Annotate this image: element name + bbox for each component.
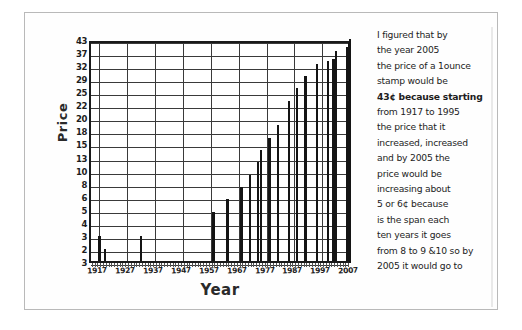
gridline-horizontal [91, 200, 348, 201]
x-axis-tick-label: 1967 [227, 265, 247, 275]
x-axis-title: Year [89, 281, 351, 299]
gridline-horizontal [91, 147, 348, 148]
bar [140, 236, 142, 261]
note-line: ten years it goes [377, 227, 495, 242]
bar [277, 125, 279, 261]
y-axis-tick-label: 5 [81, 206, 87, 216]
bar [268, 138, 270, 261]
x-axis-tick-label: 1937 [143, 265, 163, 275]
y-axis-tick-label: 37 [76, 49, 87, 59]
gridline-horizontal [91, 226, 348, 227]
bar [349, 39, 351, 261]
gridline-horizontal [91, 134, 348, 135]
y-axis-tick-label: 18 [76, 127, 87, 137]
x-axis-tick-label: 1997 [310, 265, 330, 275]
gridline-horizontal [91, 213, 348, 214]
x-axis-tick-labels: 1917192719371947195719671977198719972007 [89, 266, 351, 282]
note-line: 2005 it would go to [377, 258, 495, 273]
y-axis-tick-label: 43 [76, 36, 87, 46]
note-line: is the span each [377, 212, 495, 227]
y-axis-tick-label: 13 [76, 154, 87, 164]
y-axis-tick-label: 15 [76, 140, 87, 150]
y-axis-tick-label: 22 [76, 101, 87, 111]
bar [226, 199, 228, 261]
note-line: increased, increased [377, 135, 495, 150]
gridline-horizontal [91, 108, 348, 109]
y-axis-tick-label: 2 [81, 245, 87, 255]
bar [288, 101, 290, 261]
y-axis-tick-label: 4 [81, 219, 87, 229]
gridline-vertical [155, 43, 156, 261]
plot-area [89, 41, 351, 263]
gridline-horizontal [91, 121, 348, 122]
gridline-horizontal [91, 56, 348, 57]
handwritten-note: I figured that bythe year 2005the price … [377, 27, 495, 299]
bar [260, 150, 262, 261]
gridline-horizontal [91, 95, 348, 96]
bar [296, 88, 298, 261]
x-axis-tick-label: 1927 [115, 265, 135, 275]
gridline-vertical [127, 43, 128, 261]
gridline-horizontal [91, 187, 348, 188]
note-line: from 1917 to 1995 [377, 104, 495, 119]
gridline-horizontal [91, 161, 348, 162]
paper-frame: Price 43373229252220181513108654323 1917… [24, 12, 498, 310]
x-axis-tick-label: 2007 [338, 265, 358, 275]
note-line: price would be [377, 166, 495, 181]
note-line: increasing about [377, 181, 495, 196]
bar [98, 236, 100, 261]
gridline-horizontal [91, 174, 348, 175]
note-line: from 8 to 9 &10 so by [377, 243, 495, 258]
note-line: the year 2005 [377, 42, 495, 57]
gridline-horizontal [91, 69, 348, 70]
x-axis-tick-label: 1987 [282, 265, 302, 275]
note-line: 43¢ because starting [377, 89, 495, 104]
y-axis-tick-label: 25 [76, 88, 87, 98]
bar [304, 76, 306, 261]
bar [335, 51, 337, 261]
scan-edge-artifact [491, 27, 493, 307]
gridline-horizontal [91, 239, 348, 240]
note-line: stamp would be [377, 73, 495, 88]
bar [249, 175, 251, 261]
note-line: the price of a 1ounce [377, 58, 495, 73]
gridline-horizontal [91, 82, 348, 83]
hand-drawn-bar-chart: Price 43373229252220181513108654323 1917… [33, 19, 363, 305]
y-axis-tick-label: 32 [76, 62, 87, 72]
note-line: 5 or 6¢ because [377, 196, 495, 211]
gridline-vertical [99, 43, 100, 261]
y-axis-tick-label: 20 [76, 114, 87, 124]
bar [327, 61, 329, 261]
gridline-vertical [322, 43, 323, 261]
y-axis-tick-label: 6 [81, 193, 87, 203]
note-line: and by 2005 the [377, 150, 495, 165]
gridline-horizontal [91, 252, 348, 253]
y-axis-tick-label: 10 [76, 167, 87, 177]
gridline-horizontal [91, 43, 348, 44]
y-axis-tick-labels: 43373229252220181513108654323 [55, 41, 87, 263]
x-axis-tick-label: 1947 [171, 265, 191, 275]
bar [240, 187, 242, 261]
bar [212, 212, 214, 261]
x-axis-tick-label: 1917 [87, 265, 107, 275]
bar [104, 249, 106, 261]
x-axis-tick-label: 1957 [199, 265, 219, 275]
bar [316, 64, 318, 261]
note-line: I figured that by [377, 27, 495, 42]
gridline-vertical [183, 43, 184, 261]
x-axis-tick-label: 1977 [254, 265, 274, 275]
y-axis-tick-label: 3 [81, 232, 87, 242]
y-axis-tick-label: 8 [81, 180, 87, 190]
note-line: the price that it [377, 119, 495, 134]
y-axis-tick-label: 29 [76, 75, 87, 85]
